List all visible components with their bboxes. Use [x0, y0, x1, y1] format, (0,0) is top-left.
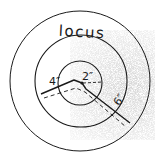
locus-diagram: locus 4″ 2″ 6″	[0, 0, 160, 161]
middle-radius-label: 4″	[49, 75, 60, 88]
inner-radius-label: 2″	[82, 70, 93, 83]
title-label: locus	[58, 22, 105, 42]
